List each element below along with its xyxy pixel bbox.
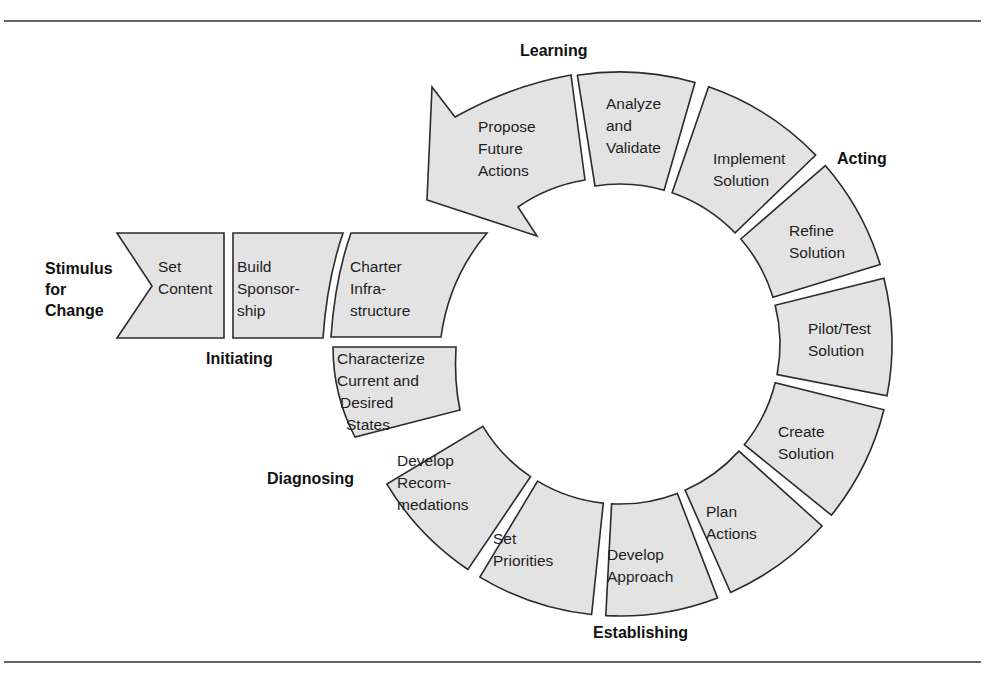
phase-acting-label: Acting: [837, 150, 887, 167]
step-characterize-states: Characterize Current and Desired States: [333, 347, 460, 437]
idealc-model-diagram: Set Content Build Sponsor- ship Charter …: [0, 0, 1002, 681]
phase-initiating-label: Initiating: [206, 350, 273, 367]
step-propose-future-actions: Propose Future Actions: [427, 75, 585, 236]
pilot-test-solution-shape: [775, 278, 892, 396]
step-build-sponsorship: Build Sponsor- ship: [233, 233, 343, 338]
stimulus-for-change-label: Stimulus for Change: [45, 260, 117, 319]
step-charter-infrastructure: Charter Infra- structure: [331, 233, 487, 337]
analyze-validate-shape: [577, 72, 695, 190]
phase-diagnosing-label: Diagnosing: [267, 470, 354, 487]
step-set-content: Set Content: [117, 233, 224, 338]
phase-establishing-label: Establishing: [593, 624, 688, 641]
phase-learning-label: Learning: [520, 42, 588, 59]
